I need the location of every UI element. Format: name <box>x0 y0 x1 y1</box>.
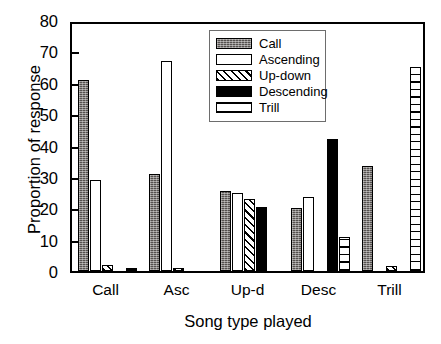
bar <box>232 193 243 271</box>
bar <box>244 199 255 271</box>
legend-swatch <box>216 38 252 49</box>
bar <box>149 174 160 271</box>
x-axis-tick-label: Up-d <box>213 281 283 299</box>
legend-swatch <box>216 86 252 97</box>
bar <box>102 265 113 271</box>
bar <box>126 268 137 271</box>
y-axis-tick-label: 0 <box>12 264 58 281</box>
legend-item: Call <box>216 36 319 51</box>
legend-item: Descending <box>216 84 319 99</box>
y-axis-tick-label: 10 <box>12 233 58 250</box>
x-axis-tick-label: Call <box>71 281 141 299</box>
bar <box>173 268 184 271</box>
bar <box>327 139 338 271</box>
x-axis-tick-label: Trill <box>355 281 425 299</box>
legend-item: Trill <box>216 100 319 115</box>
bar-chart-figure: Proportion of response 01020304050607080… <box>0 0 441 344</box>
y-axis-tick-label: 80 <box>12 13 58 30</box>
y-axis-tick-label: 30 <box>12 170 58 187</box>
y-axis-tick <box>70 241 79 243</box>
bar <box>362 166 373 271</box>
bar <box>303 197 314 271</box>
bar <box>161 61 172 271</box>
legend-swatch <box>216 54 252 65</box>
bar <box>78 80 89 271</box>
y-axis-tick-label: 50 <box>12 107 58 124</box>
legend-label: Call <box>259 37 281 50</box>
bar <box>410 67 421 271</box>
legend-label: Up-down <box>259 69 311 82</box>
legend: CallAscendingUp-downDescendingTrill <box>209 30 326 122</box>
legend-item: Up-down <box>216 68 319 83</box>
legend-label: Trill <box>259 101 279 114</box>
y-axis-tick <box>70 115 79 117</box>
bar <box>386 266 397 271</box>
y-axis-tick <box>70 209 79 211</box>
y-axis-tick <box>70 52 79 54</box>
y-axis-tick-label: 60 <box>12 76 58 93</box>
legend-swatch <box>216 102 252 113</box>
bar <box>220 191 231 271</box>
y-axis-tick-label: 70 <box>12 44 58 61</box>
y-axis-tick <box>70 147 79 149</box>
x-axis-tick-label: Desc <box>284 281 354 299</box>
bar <box>339 237 350 272</box>
x-axis-tick-label: Asc <box>142 281 212 299</box>
bar <box>291 208 302 271</box>
legend-swatch <box>216 70 252 81</box>
y-axis-tick-label: 20 <box>12 201 58 218</box>
legend-label: Ascending <box>259 53 320 66</box>
x-axis-title: Song type played <box>70 312 426 331</box>
bar <box>90 180 101 271</box>
legend-label: Descending <box>259 85 328 98</box>
bar <box>256 207 267 271</box>
legend-item: Ascending <box>216 52 319 67</box>
y-axis-tick-label: 40 <box>12 139 58 156</box>
y-axis-tick-labels: 01020304050607080 <box>12 0 58 344</box>
y-axis-tick <box>70 178 79 180</box>
y-axis-tick <box>70 84 79 86</box>
